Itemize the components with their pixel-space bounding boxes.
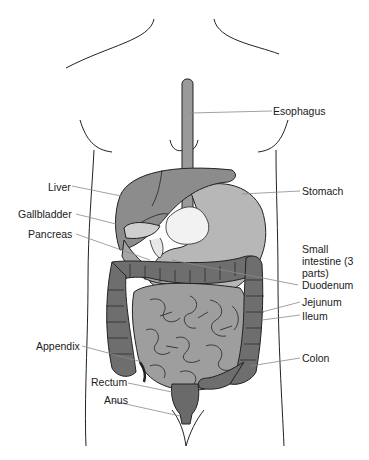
stomach-lumen	[166, 207, 209, 244]
rectum-shape	[171, 384, 198, 424]
label-ileum: Ileum	[302, 310, 328, 322]
label-appendix: Appendix	[36, 340, 80, 352]
label-gallbladder: Gallbladder	[18, 208, 72, 220]
label-pancreas: Pancreas	[28, 228, 72, 240]
digestive-system-diagram: Esophagus Liver Stomach Gallbladder Panc…	[0, 0, 369, 460]
label-duodenum: Duodenum	[302, 279, 353, 291]
label-esophagus: Esophagus	[273, 105, 326, 117]
gallbladder-shape	[124, 223, 160, 239]
label-anus: Anus	[104, 394, 128, 406]
label-stomach: Stomach	[302, 185, 343, 197]
label-liver: Liver	[48, 181, 71, 193]
label-colon: Colon	[302, 352, 329, 364]
label-small-intestine: Small intestine (3 parts)	[302, 243, 362, 279]
label-rectum: Rectum	[91, 376, 127, 388]
label-jejunum: Jejunum	[302, 296, 342, 308]
